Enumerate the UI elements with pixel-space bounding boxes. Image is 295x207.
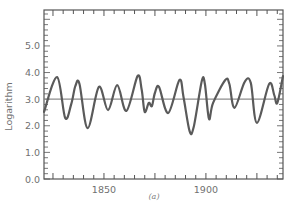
line-chart: 0.01.02.03.04.05.0 18501900 Logarithm (a…: [0, 0, 295, 207]
figure-caption: (a): [148, 192, 159, 201]
svg-text:1850: 1850: [92, 184, 116, 195]
svg-text:5.0: 5.0: [25, 40, 40, 51]
y-axis-tick-labels: 0.01.02.03.04.05.0: [25, 40, 40, 184]
data-series-line: [44, 75, 283, 134]
y-axis-title: Logarithm: [3, 82, 14, 130]
svg-text:1.0: 1.0: [25, 147, 40, 158]
axis-ticks: [44, 10, 283, 179]
svg-text:2.0: 2.0: [25, 120, 40, 131]
plot-frame: [44, 10, 283, 179]
svg-text:0.0: 0.0: [25, 174, 40, 185]
svg-text:3.0: 3.0: [25, 94, 40, 105]
svg-text:4.0: 4.0: [25, 67, 40, 78]
svg-text:1900: 1900: [194, 184, 218, 195]
